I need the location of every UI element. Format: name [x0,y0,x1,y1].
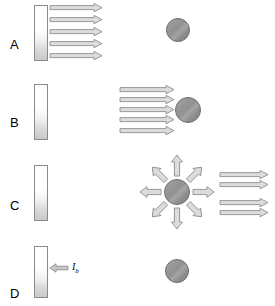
incident-ray-arrow-d [50,263,70,275]
sphere-b [175,97,201,123]
gradient-slab-d [34,246,48,298]
panel-label-c: C [10,199,19,212]
panel-label-d: D [10,287,19,300]
ray-diagram-figure: A B [0,0,275,306]
sphere-c [164,179,190,205]
ray-arrows-a [50,3,108,63]
sphere-d [165,259,189,283]
sphere-a [166,18,190,42]
gradient-slab-b [34,84,48,140]
ray-arrows-c-right [220,170,272,218]
gradient-slab-a [34,5,48,61]
incident-intensity-subscript: b [75,267,79,275]
gradient-slab-c [34,165,48,221]
incident-intensity-label: Ib [72,262,79,275]
panel-label-b: B [10,116,19,129]
ray-arrows-b [120,86,178,136]
panel-label-a: A [10,38,19,51]
